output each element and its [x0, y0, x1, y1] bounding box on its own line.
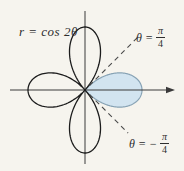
fraction-numerator: π: [156, 26, 165, 38]
equation-label: r = cos 2θ: [19, 25, 78, 38]
ray-label-lower-fraction: π 4: [160, 132, 169, 155]
fraction-numerator: π: [160, 132, 169, 144]
ray-label-upper-prefix: θ =: [136, 32, 153, 44]
ray-label-minus-pi-over-4: θ = − π 4: [129, 132, 169, 155]
ray-label-upper-fraction: π 4: [156, 26, 165, 49]
fraction-denominator: 4: [158, 38, 163, 50]
x-axis-arrowhead-icon: [166, 87, 175, 93]
ray-label-lower-prefix: θ = −: [129, 138, 157, 150]
polar-rose-figure: r = cos 2θ θ = π 4 θ = − π 4: [0, 0, 184, 171]
fraction-denominator: 4: [162, 144, 167, 156]
ray-label-pi-over-4: θ = π 4: [136, 26, 165, 49]
